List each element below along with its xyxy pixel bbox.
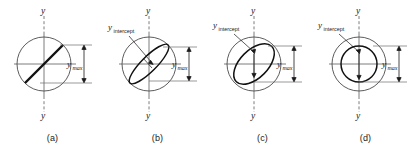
panel-a: y y y max (a) xyxy=(0,0,105,157)
y-axis-label-bottom: y xyxy=(145,111,151,121)
panel-c: y y y max y intercept (c) xyxy=(210,0,315,157)
yintercept-label-subscript: intercept xyxy=(114,28,135,34)
ymax-label-subscript: max xyxy=(388,65,398,71)
yintercept-label-base: y xyxy=(107,22,112,32)
ymax-label-subscript: max xyxy=(73,65,83,71)
polarization-ellipse-figure: y y y max (a) y xyxy=(0,0,418,157)
panel-caption-c: (c) xyxy=(210,133,315,143)
y-axis-label-top: y xyxy=(250,6,256,16)
yintercept-extent-arrow-bottom xyxy=(252,73,256,77)
yintercept-label-base: y xyxy=(317,20,322,30)
ymax-label-base: y xyxy=(66,59,71,69)
yintercept-arrow-head xyxy=(356,49,360,53)
ymax-label-base: y xyxy=(381,59,386,69)
yintercept-label-subscript: intercept xyxy=(324,26,345,32)
y-axis-label-bottom: y xyxy=(355,111,361,121)
y-axis-label-top: y xyxy=(40,6,46,16)
ymax-arrow-head-bottom xyxy=(187,77,191,81)
ymax-arrow-head-top xyxy=(187,47,191,51)
panel-caption-a: (a) xyxy=(0,133,105,143)
ymax-label-subscript: max xyxy=(178,65,188,71)
ymax-arrow-head-top xyxy=(292,46,296,50)
ymax-arrow-head-bottom xyxy=(82,79,86,83)
ymax-label-subscript: max xyxy=(283,65,293,71)
yintercept-extent-arrow-bottom xyxy=(357,75,361,79)
panel-caption-b: (b) xyxy=(105,133,210,143)
panel-d: y y y max y intercept (d) xyxy=(313,0,418,157)
ymax-arrow-head-bottom xyxy=(397,78,401,82)
yintercept-arrow-head xyxy=(251,49,255,53)
ymax-label-base: y xyxy=(276,59,281,69)
y-axis-label-top: y xyxy=(355,6,361,16)
y-axis-label-bottom: y xyxy=(250,111,256,121)
panel-caption-d: (d) xyxy=(313,133,418,143)
y-axis-label-top: y xyxy=(145,6,151,16)
ymax-label-base: y xyxy=(171,59,176,69)
panel-b: y y y max y intercept (b) xyxy=(105,0,210,157)
yintercept-label-subscript: intercept xyxy=(219,26,240,32)
ymax-arrow-head-bottom xyxy=(292,78,296,82)
y-axis-label-bottom: y xyxy=(40,111,46,121)
ymax-arrow-head-top xyxy=(397,46,401,50)
ymax-arrow-head-top xyxy=(82,45,86,49)
yintercept-label-base: y xyxy=(212,20,217,30)
